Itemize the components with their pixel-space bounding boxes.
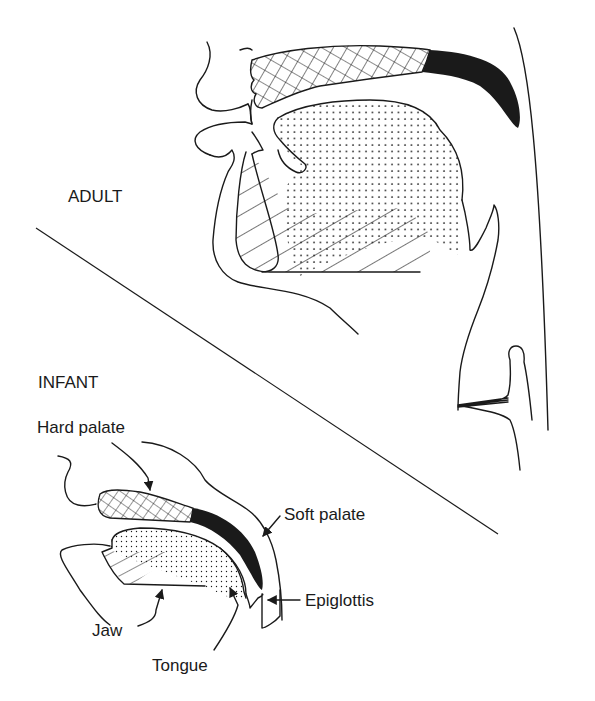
adult-upper-lip [195,104,252,155]
infant-hard-palate [98,490,193,522]
label-tongue: Tongue [152,656,208,675]
arrow-jaw [138,590,162,626]
adult-soft-palate [422,50,520,128]
label-hard-palate: Hard palate [37,418,125,437]
adult-diagram [195,28,548,470]
infant-chin [60,544,110,625]
divider-line [36,228,498,534]
arrow-hard-palate [112,443,150,490]
infant-diagram [58,442,282,628]
infant-face-profile [58,456,96,506]
label-jaw: Jaw [92,621,123,640]
label-infant: INFANT [38,373,98,392]
adult-pharynx-wall [514,28,548,430]
adult-larynx [458,346,532,470]
infant-epiglottis [246,590,280,628]
adult-nasal-line [240,49,252,51]
label-adult: ADULT [68,187,122,206]
adult-hard-palate [251,46,430,108]
vocal-tract-diagram: ADULT INFANT Hard palate Soft palate Epi… [0,0,595,701]
arrow-soft-palate [263,516,280,536]
adult-epiglottis [458,200,499,410]
adult-face-profile [196,42,248,111]
label-soft-palate: Soft palate [284,505,365,524]
label-epiglottis: Epiglottis [305,591,374,610]
arrow-tongue [214,588,238,650]
